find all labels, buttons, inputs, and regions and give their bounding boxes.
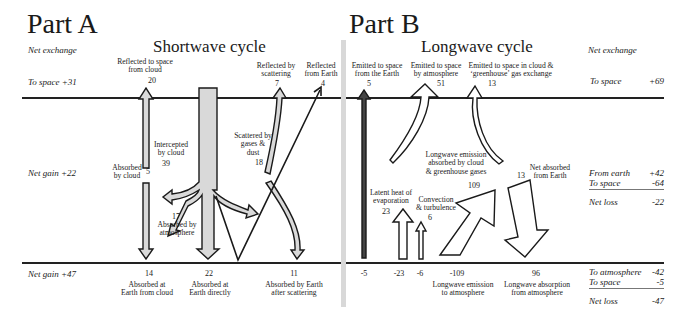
surface-value-convection: -6 <box>414 269 426 278</box>
label-line: from Earth <box>302 70 340 78</box>
surface-value-latent: -23 <box>391 269 407 278</box>
surface-value-lw-absorption: 96 <box>529 269 543 278</box>
value-emitted-atmosphere: 51 <box>435 79 447 88</box>
label-absorbed-earth-cloud: Absorbed at Earth from cloud <box>118 281 176 298</box>
value-latent-heat: 23 <box>380 207 392 216</box>
arrow-absorbed-scattering <box>266 181 304 259</box>
value-reflected-scattering: 7 <box>272 79 282 88</box>
value-lw-absorbed: 109 <box>466 181 482 190</box>
value-net-absorbed: 13 <box>516 171 526 180</box>
value-convection: 6 <box>426 213 434 222</box>
label-intercepted-cloud: Intercepted by cloud <box>152 141 190 158</box>
arrow-cloud-to-earth <box>139 183 153 259</box>
value-emitted-earth: 5 <box>365 79 373 88</box>
arrow-net-absorbed <box>505 180 548 257</box>
label-line: dust <box>230 149 276 157</box>
label-absorbed-atmosphere: Absorbed by atmosphere <box>154 221 200 238</box>
label-net-absorbed: Net absorbed from Earth <box>526 164 574 181</box>
label-reflected-cloud: Reflected to space from cloud <box>110 58 180 75</box>
label-line: by cloud <box>152 149 190 157</box>
value-reflected-cloud: 20 <box>146 76 158 85</box>
energy-flow-arrows <box>0 0 684 324</box>
arrow-reflected-cloud <box>139 88 153 168</box>
label-absorbed-earth-direct: Absorbed at Earth directly <box>188 281 232 298</box>
label-emitted-cloud-gh: Emitted to space in cloud & ‘greenhouse’… <box>464 62 558 79</box>
label-lw-emission-surface: Longwave emission to atmosphere <box>430 281 496 298</box>
arrow-convection <box>416 222 426 259</box>
label-emitted-atmosphere: Emitted to space by atmosphere <box>407 62 465 79</box>
value-absorbed-earth-direct: 22 <box>204 269 214 278</box>
label-line: by atmosphere <box>407 70 465 78</box>
value-scattered: 18 <box>253 158 265 167</box>
label-line: atmosphere <box>154 229 200 237</box>
label-line: from atmosphere <box>502 289 572 297</box>
label-absorbed-cloud: Absorbed by cloud <box>110 164 144 181</box>
label-line: from Earth <box>526 172 574 180</box>
label-reflected-earth: Reflected from Earth <box>302 62 340 79</box>
value-absorbed-cloud: 5 <box>144 167 152 176</box>
label-line: ‘greenhouse’ gas exchange <box>464 70 558 78</box>
label-lw-absorbed: Longwave emission absorbed by cloud & gr… <box>424 151 488 176</box>
value-absorbed-earth-cloud: 14 <box>144 269 154 278</box>
label-line: to atmosphere <box>430 289 496 297</box>
surface-value-emitted: -5 <box>357 269 371 278</box>
arrow-emitted-earth <box>358 90 370 258</box>
label-convection: Convection & turbulence <box>414 196 458 213</box>
value-absorbed-earth-scatter: 11 <box>289 269 299 278</box>
label-line: from cloud <box>110 66 180 74</box>
label-absorbed-earth-scatter: Absorbed by Earth after scattering <box>262 281 326 298</box>
label-line: evaporation <box>366 197 416 205</box>
label-line: scattering <box>254 70 298 78</box>
label-emitted-earth: Emitted to space from the Earth <box>348 62 406 79</box>
label-line: Earth from cloud <box>118 289 176 297</box>
value-intercepted-cloud: 39 <box>160 159 172 168</box>
label-line: from the Earth <box>348 70 406 78</box>
arrow-latent-heat <box>393 209 413 259</box>
label-reflected-scattering: Reflected by scattering <box>254 62 298 79</box>
label-scattered: Scattered by gases & dust <box>230 132 276 157</box>
label-line: & turbulence <box>414 204 458 212</box>
value-reflected-earth: 4 <box>318 79 328 88</box>
label-line: by cloud <box>110 172 144 180</box>
value-emitted-cloud-gh: 13 <box>486 79 498 88</box>
label-line: Earth directly <box>188 289 232 297</box>
label-line: & greenhouse gases <box>424 168 488 176</box>
surface-value-lw-emission: -109 <box>447 269 467 278</box>
label-line: after scattering <box>262 289 326 297</box>
label-lw-absorption-surface: Longwave absorption from atmosphere <box>502 281 572 298</box>
arrow-reflected-earth <box>216 90 320 260</box>
label-latent-heat: Latent heat of evaporation <box>366 189 416 206</box>
